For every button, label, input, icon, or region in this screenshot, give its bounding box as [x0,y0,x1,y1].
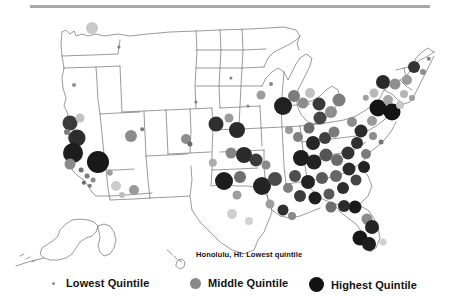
map-marker [85,174,90,179]
lowest-quintile-marker-icon [52,282,55,285]
map-marker [246,104,249,107]
map-marker [278,205,289,216]
map-marker [351,137,363,149]
map-marker [117,45,120,48]
legend-item-lowest[interactable]: Lowest Quintile [48,277,149,289]
map-marker [225,114,234,123]
legend-label-lowest: Lowest Quintile [66,277,149,289]
highest-quintile-marker-icon [309,277,324,292]
legend-item-highest[interactable]: Highest Quintile [309,277,417,292]
map-marker [326,202,337,213]
map-marker [301,175,315,189]
map-marker [427,57,431,61]
map-marker [111,181,121,191]
map-marker [119,192,125,198]
map-marker [187,141,192,146]
map-marker [72,83,76,87]
map-marker [79,168,84,173]
map-marker [330,170,342,182]
map-marker [304,123,315,134]
legend-item-middle[interactable]: Middle Quintile [190,277,288,289]
map-marker [215,172,233,190]
map-marker [325,106,337,118]
map-marker [402,75,412,85]
map-marker [288,212,296,220]
map-marker [194,100,197,103]
map-marker [129,185,139,195]
map-marker [362,237,376,251]
middle-quintile-marker-icon [190,278,201,289]
map-marker [314,112,327,125]
map-marker [229,76,232,79]
map-marker [305,88,315,98]
map-marker [358,161,370,173]
map-marker [269,82,273,86]
map-marker [234,171,246,183]
map-marker [306,136,320,150]
map-marker [333,94,346,107]
map-marker [82,181,86,185]
map-marker [262,161,271,170]
map-marker [107,170,113,176]
map-marker [309,192,322,205]
map-marker [355,125,368,138]
map-marker [245,217,253,225]
map-marker [86,22,98,34]
map-marker [367,116,377,126]
map-marker [369,132,377,140]
map-marker [76,114,85,123]
map-marker [293,132,303,142]
legend-label-middle: Middle Quintile [208,277,288,289]
map-marker [209,159,217,167]
map-marker [65,159,76,170]
map-marker [227,209,237,219]
map-marker [376,75,390,89]
honolulu-annotation: Honolulu, HI: Lowest quintile [196,250,302,259]
figure-container: Honolulu, HI: Lowest quintile Lowest Qui… [0,0,453,296]
legend: Lowest Quintile Middle Quintile Highest … [0,275,453,296]
map-marker [266,200,275,209]
map-marker [351,175,362,186]
map-marker [349,201,362,214]
map-marker [361,149,371,159]
map-marker [313,98,326,111]
map-marker [379,140,384,145]
map-marker [324,189,335,200]
map-marker [347,117,357,127]
map-marker [380,239,387,246]
map-marker [209,117,224,132]
map-marker [87,151,109,173]
map-marker [337,182,349,194]
map-marker [140,127,144,131]
map-marker [229,122,245,138]
map-marker [409,95,415,101]
map-marker [294,190,306,202]
map-marker [316,172,328,184]
map-marker [342,147,355,160]
map-marker [343,163,356,176]
map-marker [370,89,379,98]
map-marker [338,200,350,212]
map-marker [91,178,96,183]
map-marker [298,98,309,109]
map-marker [257,91,266,100]
map-marker [283,183,293,193]
header-rule [30,5,430,8]
map-marker [408,61,420,73]
map-marker [400,90,408,98]
map-marker [268,172,282,186]
map-marker [363,95,369,101]
legend-label-highest: Highest Quintile [331,279,417,291]
map-marker [285,126,293,134]
map-marker [420,69,426,75]
map-marker [396,101,404,109]
map-marker [88,184,92,188]
map-marker [226,148,237,159]
data-markers-layer [0,10,453,270]
map-marker [125,130,137,142]
map-marker [329,127,340,138]
map-marker [289,170,301,182]
map-marker [390,79,401,90]
map-marker [365,220,379,234]
map-marker [233,191,242,200]
